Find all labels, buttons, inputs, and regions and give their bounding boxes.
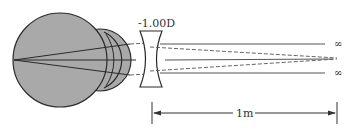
myopia-diagram: -1.00D ∞ ∞ 1m <box>0 0 351 138</box>
concave-lens <box>140 31 162 87</box>
distance-label: 1m <box>236 107 254 120</box>
arrow-left-icon <box>153 111 161 116</box>
arrow-right-icon <box>328 111 336 116</box>
infinity-bottom-label: ∞ <box>334 67 342 78</box>
lens-power-label: -1.00D <box>138 17 175 30</box>
infinity-top-label: ∞ <box>334 38 342 49</box>
